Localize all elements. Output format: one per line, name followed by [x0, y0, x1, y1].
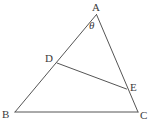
vertex-label-c: C [140, 110, 147, 121]
vertex-label-d: D [45, 53, 53, 64]
side-AB-line [15, 15, 97, 113]
side-AC-line [97, 15, 139, 113]
triangle-svg [0, 0, 153, 127]
angle-label-theta: θ [89, 20, 94, 31]
segment-DE-line [57, 63, 127, 89]
geometry-diagram: A B C D E θ [0, 0, 153, 127]
vertex-label-a: A [92, 2, 100, 13]
triangle-strokes [15, 15, 138, 113]
vertex-label-b: B [2, 109, 9, 120]
vertex-label-e: E [130, 82, 137, 93]
